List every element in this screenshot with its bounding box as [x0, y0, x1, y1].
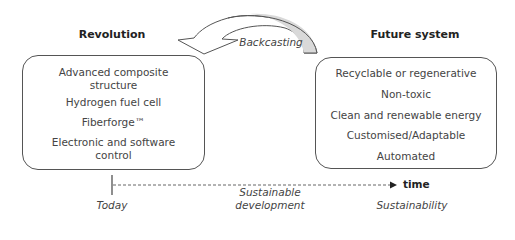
revolution-heading: Revolution: [52, 28, 172, 41]
list-item: Hydrogen fuel cell: [23, 96, 204, 109]
list-item: Automated: [316, 150, 496, 163]
list-item: Recyclable or regenerative: [316, 67, 496, 80]
list-item: Non-toxic: [316, 88, 496, 101]
timeline-arrowhead-icon: [390, 182, 397, 189]
revolution-box: Advanced composite structure Hydrogen fu…: [22, 55, 205, 170]
sustainability-label: Sustainability: [362, 199, 462, 212]
list-item: Fiberforge™: [23, 116, 204, 129]
list-item: Clean and renewable energy: [316, 109, 496, 122]
future-system-box: Recyclable or regenerative Non-toxic Cle…: [315, 57, 497, 169]
backcasting-label: Backcasting: [236, 36, 306, 49]
list-item: Electronic and software control: [23, 136, 204, 162]
future-system-heading: Future system: [355, 28, 475, 41]
list-item: Advanced composite structure: [23, 66, 204, 92]
sustainable-development-label: Sustainable development: [215, 186, 325, 212]
time-axis-label: time: [403, 178, 430, 190]
list-item: Customised/Adaptable: [316, 129, 496, 142]
today-label: Today: [82, 199, 142, 212]
